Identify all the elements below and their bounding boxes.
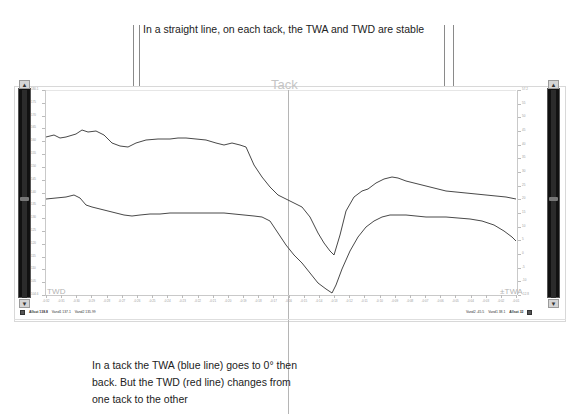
x-tick-label: -0:13 bbox=[331, 300, 338, 303]
y-tick-label-right: -10 bbox=[522, 279, 526, 282]
y-tick-label-right: 35 bbox=[522, 156, 525, 159]
x-tick bbox=[501, 295, 502, 298]
grid-icon[interactable] bbox=[527, 310, 532, 315]
status-item: Allsot 138.8 bbox=[29, 310, 48, 314]
x-tick-label: -0:20 bbox=[225, 300, 232, 303]
y-tick-label-left: 110 bbox=[31, 267, 36, 270]
x-tick-label: -0:28 bbox=[103, 300, 110, 303]
x-tick bbox=[364, 295, 365, 298]
x-tick bbox=[198, 295, 199, 298]
x-tick-label: -0:19 bbox=[240, 300, 247, 303]
x-tick bbox=[228, 295, 229, 298]
y-tick-label-left: 125 bbox=[31, 229, 36, 232]
x-tick-label: -0:22 bbox=[194, 300, 201, 303]
annotation-bottom-text: In a tack the TWA (blue line) goes to 0°… bbox=[92, 357, 307, 408]
x-tick bbox=[349, 295, 350, 298]
y-tick-left bbox=[42, 218, 45, 219]
y-tick-label-right: 15 bbox=[522, 211, 525, 214]
scrollbar-right-thumb[interactable] bbox=[549, 197, 558, 201]
y-tick-right bbox=[518, 240, 521, 241]
y-tick-left bbox=[42, 205, 45, 206]
x-tick bbox=[137, 295, 138, 298]
x-tick-label: -0:29 bbox=[88, 300, 95, 303]
x-tick-label: -0:21 bbox=[209, 300, 216, 303]
y-tick-label-right: 57.2 bbox=[522, 88, 528, 91]
x-tick bbox=[122, 295, 123, 298]
y-tick-left bbox=[42, 90, 45, 91]
scroll-down-button[interactable]: ▼ bbox=[548, 299, 559, 308]
x-tick bbox=[76, 295, 77, 298]
y-tick-label-left: 120 bbox=[31, 242, 36, 245]
status-item: Allsot 32 bbox=[509, 310, 523, 314]
x-tick bbox=[61, 295, 62, 298]
scroll-up-button[interactable]: ▲ bbox=[548, 80, 559, 89]
scrollbar-left-track[interactable] bbox=[22, 90, 27, 298]
series-line-twa bbox=[46, 195, 516, 293]
scrollbar-left-thumb[interactable] bbox=[20, 197, 29, 201]
y-axis-right bbox=[517, 90, 518, 295]
y-tick-label-right: 25 bbox=[522, 184, 525, 187]
y-tick-label-right: 5 bbox=[522, 238, 524, 241]
scrollbar-left[interactable] bbox=[18, 88, 31, 298]
y-tick-right bbox=[518, 254, 521, 255]
annotation-top-text: In a straight line, on each tack, the TW… bbox=[143, 22, 424, 36]
grid-icon[interactable] bbox=[20, 310, 25, 315]
y-tick-label-left: 105 bbox=[31, 280, 36, 283]
x-tick bbox=[471, 295, 472, 298]
y-tick-left bbox=[42, 180, 45, 181]
x-tick bbox=[289, 295, 290, 298]
x-axis bbox=[45, 295, 517, 296]
y-tick-label-right: 50 bbox=[522, 115, 525, 118]
y-tick-right bbox=[518, 131, 521, 132]
x-tick-label: -0:27 bbox=[118, 300, 125, 303]
y-tick-left bbox=[42, 295, 45, 296]
scrollbar-right-track[interactable] bbox=[551, 90, 556, 298]
x-tick-label: -0:23 bbox=[179, 300, 186, 303]
y-tick-left bbox=[42, 103, 45, 104]
y-tick-right bbox=[518, 268, 521, 269]
x-tick-label: -0:25 bbox=[149, 300, 156, 303]
y-tick-label-right: 55 bbox=[522, 102, 525, 105]
y-tick-label-left: 140 bbox=[31, 191, 36, 194]
scroll-down-button[interactable]: ▼ bbox=[19, 299, 30, 308]
x-tick bbox=[440, 295, 441, 298]
x-tick-label: -0:09 bbox=[391, 300, 398, 303]
y-tick-right bbox=[518, 145, 521, 146]
y-tick-label-right: 0 bbox=[522, 252, 524, 255]
x-tick-label: -0:08 bbox=[406, 300, 413, 303]
y-tick-left bbox=[42, 116, 45, 117]
x-tick bbox=[410, 295, 411, 298]
scrollbar-right[interactable] bbox=[547, 88, 560, 298]
x-tick-label: -0:06 bbox=[437, 300, 444, 303]
y-tick-label-left: 130 bbox=[31, 216, 36, 219]
y-tick-label-left: 160 bbox=[31, 139, 36, 142]
x-tick bbox=[213, 295, 214, 298]
scroll-up-button[interactable]: ▲ bbox=[19, 80, 30, 89]
x-tick bbox=[304, 295, 305, 298]
y-tick-right bbox=[518, 90, 521, 91]
y-tick-label-left: 165 bbox=[31, 126, 36, 129]
x-tick-label: -0:31 bbox=[58, 300, 65, 303]
y-tick-left bbox=[42, 231, 45, 232]
y-tick-label-right: -5 bbox=[522, 266, 525, 269]
x-tick bbox=[258, 295, 259, 298]
x-tick-label: -0:10 bbox=[376, 300, 383, 303]
x-tick-label: -0:07 bbox=[422, 300, 429, 303]
x-tick bbox=[273, 295, 274, 298]
y-tick-left bbox=[42, 282, 45, 283]
y-tick-label-left: 104.6 bbox=[31, 293, 39, 296]
x-tick-label: -0:26 bbox=[134, 300, 141, 303]
y-tick-right bbox=[518, 158, 521, 159]
chart-series-svg bbox=[46, 90, 516, 295]
y-tick-label-right: 10 bbox=[522, 225, 525, 228]
y-tick-left bbox=[42, 257, 45, 258]
y-tick-label-right: 40 bbox=[522, 143, 525, 146]
x-tick bbox=[380, 295, 381, 298]
x-tick-label: -0:04 bbox=[467, 300, 474, 303]
x-tick bbox=[319, 295, 320, 298]
y-tick-right bbox=[518, 199, 521, 200]
y-tick-left bbox=[42, 141, 45, 142]
status-item: Vand1 137.1 bbox=[52, 310, 71, 314]
x-tick bbox=[486, 295, 487, 298]
x-tick bbox=[425, 295, 426, 298]
